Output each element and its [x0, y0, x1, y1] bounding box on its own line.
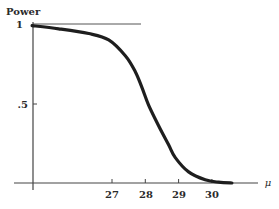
x-tick-label-28: 28	[139, 189, 153, 200]
x-tick-label-27: 27	[105, 189, 119, 200]
y-axis-title: Power	[6, 6, 41, 17]
power-curve-line	[32, 26, 232, 183]
power-curve-chart: Power 1 .5 μ 27 28 29 30	[0, 0, 279, 209]
x-tick-label-29: 29	[172, 189, 186, 200]
y-tick-label-1: 1	[16, 19, 23, 30]
x-tick-label-30: 30	[205, 189, 219, 200]
x-axis-title: μ	[265, 177, 272, 188]
y-tick-label-0.5: .5	[18, 99, 28, 110]
